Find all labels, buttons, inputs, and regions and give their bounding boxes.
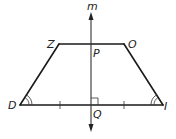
arrowhead-up-icon (89, 12, 94, 20)
angle-arc-I-inner-icon (154, 97, 158, 105)
side-OI (124, 44, 163, 105)
label-D: D (8, 99, 16, 112)
side-DZ (20, 44, 59, 105)
label-m: m (87, 0, 98, 13)
label-O: O (128, 38, 137, 51)
label-Q: Q (93, 108, 102, 121)
label-Z: Z (46, 38, 55, 51)
label-P: P (93, 47, 100, 60)
arrowhead-down-icon (89, 124, 94, 132)
right-angle-marker-icon (91, 98, 98, 105)
label-I: I (164, 100, 167, 113)
angle-arc-D-inner-icon (25, 97, 29, 105)
trapezoid-diagram: m Z O P D I Q (0, 0, 176, 139)
